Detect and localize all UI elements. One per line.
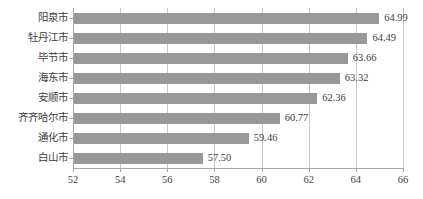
bar-row: 64.99 [73,8,403,28]
x-tick-mark [73,168,74,172]
x-tick-label-54: 54 [100,174,140,186]
x-tick-mark [403,168,404,172]
bar [73,53,348,64]
x-tick-label-60: 60 [242,174,282,186]
y-tick-mark [69,118,73,119]
x-tick-mark [120,168,121,172]
y-tick-mark [69,158,73,159]
x-tick-mark [309,168,310,172]
x-tick-mark [214,168,215,172]
bar-row: 57.50 [73,148,403,168]
bar [73,113,280,124]
bar [73,33,367,44]
bar-row: 63.66 [73,48,403,68]
category-label: 毕节市 [0,51,68,65]
x-tick-label-66: 66 [383,174,423,186]
bar-row: 64.49 [73,28,403,48]
bar [73,13,379,24]
x-tick-label-62: 62 [289,174,329,186]
x-tick-mark [167,168,168,172]
bar [73,133,249,144]
y-tick-mark [69,38,73,39]
category-label: 白山市 [0,151,68,165]
category-label: 齐齐哈尔市 [0,111,68,125]
category-label: 海东市 [0,71,68,85]
category-label: 安顺市 [0,91,68,105]
bar-row: 62.36 [73,88,403,108]
y-axis-line [73,8,74,169]
y-tick-mark [69,98,73,99]
x-tick-label-58: 58 [194,174,234,186]
x-tick-mark [262,168,263,172]
bar-value-label: 63.32 [345,71,369,85]
bar-row: 63.32 [73,68,403,88]
bar-value-label: 57.50 [208,151,232,165]
y-tick-mark [69,18,73,19]
x-tick-label-64: 64 [336,174,376,186]
bar [73,153,203,164]
category-label: 阳泉市 [0,11,68,25]
bar-value-label: 63.66 [353,51,377,65]
bar [73,93,317,104]
bar-value-label: 64.49 [372,31,396,45]
bar-value-label: 59.46 [254,131,278,145]
category-label: 牡丹江市 [0,31,68,45]
category-label: 通化市 [0,131,68,145]
bar-value-label: 62.36 [322,91,346,105]
bar-row: 60.77 [73,108,403,128]
bar-chart: 64.9964.4963.6663.3262.3660.7759.4657.50… [0,0,423,199]
gridline-66 [403,8,404,168]
bar-row: 59.46 [73,128,403,148]
bar-value-label: 60.77 [285,111,309,125]
x-tick-label-56: 56 [147,174,187,186]
y-tick-mark [69,138,73,139]
bar [73,73,340,84]
x-axis-line [73,168,404,169]
plot-area: 64.9964.4963.6663.3262.3660.7759.4657.50 [73,8,403,168]
y-tick-mark [69,58,73,59]
x-tick-mark [356,168,357,172]
y-tick-mark [69,78,73,79]
x-tick-label-52: 52 [53,174,93,186]
bar-value-label: 64.99 [384,11,408,25]
